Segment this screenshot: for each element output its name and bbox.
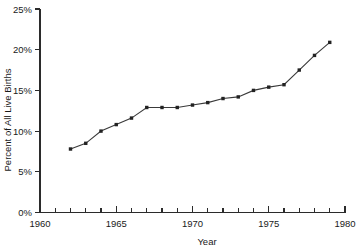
data-point-marker [313,54,316,57]
data-point-marker [176,106,179,109]
data-series [69,41,332,151]
data-point-marker [298,68,301,71]
x-axis-tick-label: 1970 [182,218,203,229]
y-axis-tick-label: 10% [13,126,33,137]
x-axis: 19601965197019751980 [29,206,355,229]
data-point-marker [282,83,285,86]
data-point-marker [130,116,133,119]
x-axis-tick-label: 1980 [334,218,355,229]
y-axis-tick-label: 15% [13,85,33,96]
x-axis-tick-label: 1960 [29,218,50,229]
data-point-marker [145,106,148,109]
data-point-marker [237,95,240,98]
y-axis: 0%5%10%15%20%25% [13,4,40,219]
x-axis-tick-label: 1965 [106,218,127,229]
data-point-marker [252,89,255,92]
chart-container: 0%5%10%15%20%25% 19601965197019751980 Ye… [0,0,359,249]
data-point-marker [99,129,102,132]
x-axis-tick-label: 1975 [258,218,279,229]
x-axis-title: Year [197,236,216,247]
series-line [71,42,330,149]
y-axis-tick-label: 25% [13,4,33,15]
data-point-marker [328,41,331,44]
data-point-marker [206,101,209,104]
line-chart: 0%5%10%15%20%25% 19601965197019751980 Ye… [0,0,359,249]
y-axis-tick-label: 0% [18,207,32,218]
data-point-marker [267,85,270,88]
data-point-marker [69,147,72,150]
y-axis-tick-label: 20% [13,44,33,55]
y-axis-tick-label: 5% [18,166,32,177]
data-point-marker [221,97,224,100]
y-axis-title: Percent of All Live Births [2,68,13,171]
data-point-marker [160,106,163,109]
data-point-marker [115,123,118,126]
data-point-marker [191,103,194,106]
data-point-marker [84,142,87,145]
